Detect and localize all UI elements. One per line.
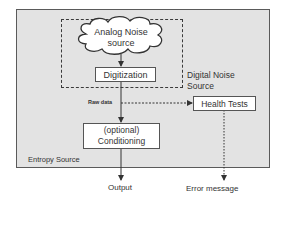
conditioning-line2: Conditioning bbox=[98, 136, 145, 147]
digital-noise-source-label: Digital Noise Source bbox=[187, 70, 235, 92]
conditioning-line1: (optional) bbox=[104, 125, 139, 136]
digital-noise-line1: Digital Noise bbox=[187, 70, 235, 81]
health-tests-label: Health Tests bbox=[201, 99, 248, 109]
entropy-source-label: Entropy Source bbox=[28, 155, 80, 164]
digitization-label: Digitization bbox=[103, 70, 147, 80]
analog-noise-source-label: Analog Noise source bbox=[76, 27, 166, 49]
analog-noise-line2: source bbox=[76, 38, 166, 49]
error-message-label: Error message bbox=[186, 184, 238, 193]
raw-data-label: Raw data bbox=[88, 99, 112, 105]
digitization-box: Digitization bbox=[95, 67, 156, 82]
analog-noise-line1: Analog Noise bbox=[76, 27, 166, 38]
output-label: Output bbox=[108, 183, 132, 192]
digital-noise-line2: Source bbox=[187, 81, 235, 92]
conditioning-box: (optional) Conditioning bbox=[83, 123, 160, 149]
health-tests-box: Health Tests bbox=[193, 96, 256, 111]
